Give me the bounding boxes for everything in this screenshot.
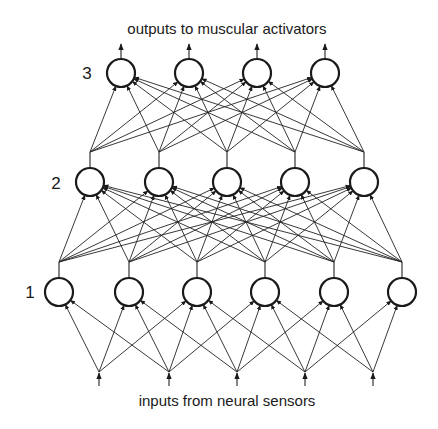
edge-layer1-to-layer2 xyxy=(103,188,265,262)
neuron-layer-2 xyxy=(213,168,241,196)
neuron-layer-1 xyxy=(183,278,211,306)
neuron-layer-1 xyxy=(115,278,143,306)
neuron-layer-2 xyxy=(281,168,309,196)
layer-label-1: 1 xyxy=(25,283,34,302)
edge-layer1-to-layer2 xyxy=(172,188,334,262)
edge-layer1-to-layer2 xyxy=(334,195,359,262)
edge-input-to-layer1 xyxy=(340,305,373,372)
edge-layer2-to-layer3 xyxy=(134,79,295,152)
edge-layer1-to-layer2 xyxy=(240,188,402,262)
layer-label-2: 2 xyxy=(51,174,60,193)
neuron-layer-3 xyxy=(311,59,339,87)
neuron-layer-2 xyxy=(76,168,104,196)
neuron-layer-3 xyxy=(107,59,135,87)
connections xyxy=(59,77,402,372)
neuron-layer-1 xyxy=(251,278,279,306)
edge-layer2-to-layer3 xyxy=(295,86,320,152)
neuron-layer-3 xyxy=(243,59,271,87)
edge-input-to-layer1 xyxy=(65,305,99,372)
neuron-layer-1 xyxy=(45,278,73,306)
edge-layer1-to-layer2 xyxy=(306,190,402,262)
edge-input-to-layer1 xyxy=(271,305,305,372)
edge-input-to-layer1 xyxy=(203,305,237,372)
neuron-layer-1 xyxy=(388,278,416,306)
edge-layer2-to-layer3 xyxy=(268,81,364,152)
edge-layer1-to-layer2 xyxy=(104,185,402,262)
inputs-caption: inputs from neural sensors xyxy=(139,392,316,409)
edge-layer1-to-layer2 xyxy=(59,188,214,262)
neuron-layer-2 xyxy=(350,168,378,196)
edge-input-to-layer1 xyxy=(373,305,397,372)
neurons xyxy=(45,59,416,306)
edge-layer1-to-layer2 xyxy=(238,190,334,262)
edge-layer2-to-layer3 xyxy=(331,86,364,152)
edge-input-to-layer1 xyxy=(237,301,323,372)
layer-label-3: 3 xyxy=(82,64,91,83)
neural-network-diagram: outputs to muscular activators inputs fr… xyxy=(0,0,438,429)
edge-layer2-to-layer3 xyxy=(200,81,295,152)
outputs-caption: outputs to muscular activators xyxy=(127,20,326,37)
edge-layer1-to-layer2 xyxy=(370,195,402,262)
neuron-layer-2 xyxy=(145,168,173,196)
neuron-layer-3 xyxy=(175,59,203,87)
neuron-layer-1 xyxy=(320,278,348,306)
edge-layer2-to-layer3 xyxy=(202,79,364,152)
